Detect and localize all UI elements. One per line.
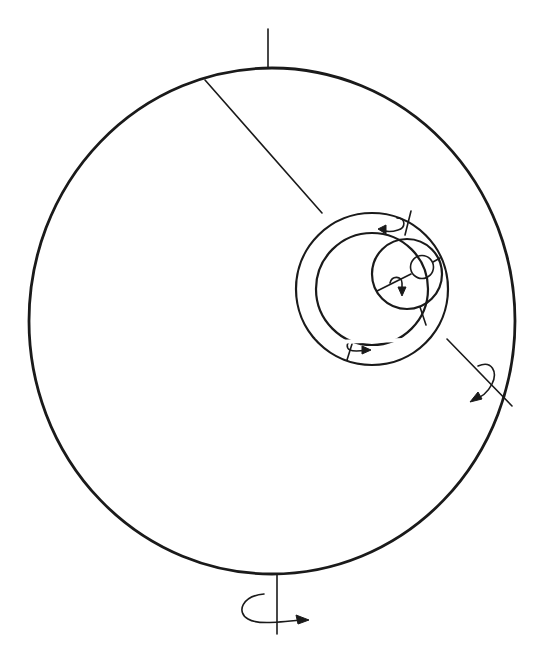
rotor-circle — [411, 256, 434, 279]
bottom-rotation-arrow-icon — [242, 594, 309, 624]
scan-gap-left — [316, 337, 325, 338]
scan-gap — [330, 340, 405, 342]
ring-rotation-arrow-top-icon — [378, 218, 404, 234]
diagonal-axis-upper — [205, 80, 322, 213]
middle-ring — [316, 233, 428, 345]
gimbal-diagram — [0, 0, 544, 647]
